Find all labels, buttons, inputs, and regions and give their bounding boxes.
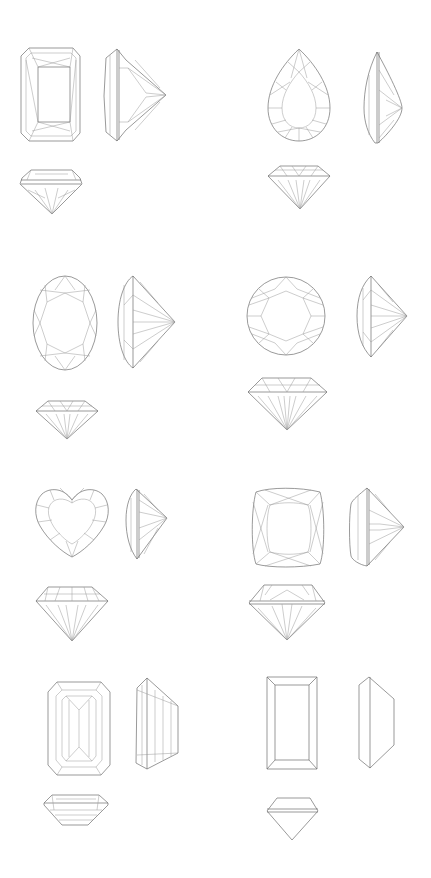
gem-round-brilliant [247,276,407,430]
round-top-view [247,277,325,355]
baguette-front-view [267,798,318,840]
heart-side-view [126,489,167,559]
pear-front-view [268,166,330,209]
oval-front-view [36,401,98,439]
radiant-side-view [104,49,166,141]
gem-baguette [267,677,394,840]
heart-front-view [36,587,108,641]
gem-cushion [249,488,404,640]
gem-heart [36,488,167,641]
gem-oval [33,276,175,439]
baguette-top-view [267,677,317,769]
oval-side-view [118,276,175,368]
round-front-view [248,378,327,430]
gem-cuts-diagram [0,0,431,878]
cushion-front-view [249,585,325,640]
heart-top-view [36,488,109,557]
gem-radiant [20,48,166,214]
cushion-side-view [350,488,405,566]
radiant-top-view [21,48,80,141]
cushion-top-view [252,488,324,567]
pear-side-view [364,52,402,143]
gem-pear [268,49,402,209]
emerald-side-view [136,678,178,769]
round-side-view [357,276,407,357]
emerald-top-view [48,682,110,775]
pear-top-view [268,49,330,141]
radiant-front-view [20,170,82,214]
emerald-front-view [44,795,108,825]
baguette-side-view [359,677,394,768]
gem-emerald [44,678,178,825]
oval-top-view [33,276,97,370]
